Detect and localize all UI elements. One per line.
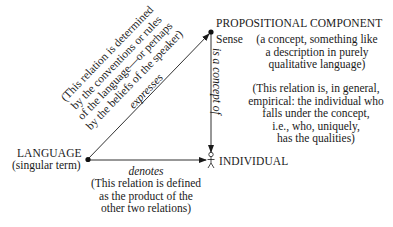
denotes-note-line: as the product of the [86,190,206,203]
concept-of-note-line: falls under the concept, [242,107,390,120]
concept-of-note-line: has the qualities) [242,132,390,145]
concept-of-note-line: empirical: the individual who [242,95,390,108]
concept-of-note: (This relation is, in general, empirical… [242,82,390,145]
individual-stick-figure-icon [208,152,215,168]
denotes-label: denotes [90,165,202,178]
sense-label: Sense [216,33,243,46]
denotes-note-line: (This relation is defined [86,177,206,190]
sense-description-line: a description in purely [252,46,382,59]
sense-description-line: qualitative language) [252,58,382,71]
concept-of-label: is a concept of [211,48,224,115]
language-subtitle: (singular term) [12,159,81,172]
language-title: LANGUAGE [17,147,82,160]
sense-description: (a concept, something like a description… [252,33,382,71]
denotes-note-line: other two relations) [86,202,206,215]
concept-of-note-line: i.e., who, uniquely, [242,120,390,133]
sense-description-line: (a concept, something like [252,33,382,46]
concept-of-note-line: (This relation is, in general, [242,82,390,95]
individual-title: INDIVIDUAL [219,155,288,168]
denotes-note: (This relation is defined as the product… [86,177,206,215]
propositional-component-title: PROPOSITIONAL COMPONENT [216,17,382,30]
